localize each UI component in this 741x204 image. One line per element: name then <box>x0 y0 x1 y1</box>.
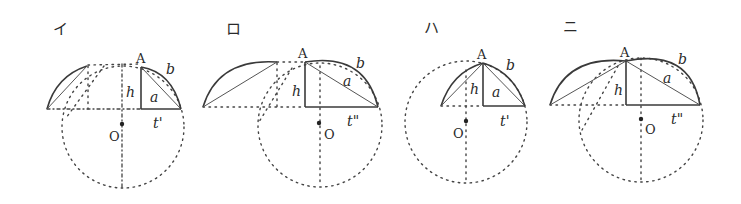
label-center: O <box>453 126 464 141</box>
label-base: t" <box>671 111 683 127</box>
label-arc: b <box>356 55 365 71</box>
label-arc: b <box>506 57 515 73</box>
panel-i: イ A b a h O t' <box>47 20 184 189</box>
label-apex: A <box>619 45 630 60</box>
chord-a <box>483 63 525 106</box>
panel-ha: ハ A b a h O t' <box>405 19 527 184</box>
label-arc: b <box>678 51 687 67</box>
panel-label-i: イ <box>53 20 68 38</box>
label-center: O <box>109 129 120 144</box>
label-height: h <box>614 82 623 98</box>
label-height: h <box>470 81 479 97</box>
label-center: O <box>645 122 656 137</box>
label-chord: a <box>663 70 671 86</box>
chord-a <box>305 62 378 107</box>
label-apex: A <box>297 46 308 61</box>
label-height: h <box>292 83 301 99</box>
panel-label-ro: ロ <box>226 20 241 38</box>
label-center: O <box>324 127 335 142</box>
panel-ni: ニ A b a h O t" <box>550 18 703 183</box>
label-chord: a <box>492 84 500 100</box>
center-point <box>120 122 124 126</box>
label-apex: A <box>476 47 487 62</box>
label-height: h <box>126 84 135 100</box>
panel-ro: ロ A b a h O t" <box>203 20 382 187</box>
label-chord: a <box>343 73 351 89</box>
label-base: t' <box>500 113 509 129</box>
center-point <box>464 119 468 123</box>
panel-label-ha: ハ <box>424 19 439 37</box>
diagram-canvas: イ A b a h O t' ロ <box>0 0 741 204</box>
guide-line <box>259 68 292 122</box>
label-base: t" <box>347 113 359 129</box>
panel-label-ni: ニ <box>563 18 578 36</box>
guide-line <box>88 64 141 65</box>
label-apex: A <box>135 51 146 66</box>
center-point <box>317 121 321 125</box>
chord-a <box>141 67 181 109</box>
label-chord: a <box>150 89 158 105</box>
circle <box>62 66 184 188</box>
center-point <box>639 117 643 121</box>
label-arc: b <box>166 61 175 77</box>
label-base: t' <box>153 115 162 131</box>
